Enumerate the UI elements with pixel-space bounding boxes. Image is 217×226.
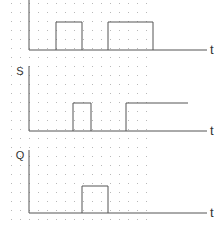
signal-label: Q (16, 149, 25, 161)
pulse (73, 103, 91, 131)
signal-q: Qt (16, 149, 214, 220)
timing-diagram: tStQt (0, 0, 217, 226)
step-high (126, 103, 188, 131)
signal-s: St (16, 65, 214, 138)
dot-grid (11, 3, 147, 220)
signals: tStQt (16, 0, 214, 220)
time-label: t (210, 205, 214, 220)
timing-diagram-canvas: tStQt (0, 0, 217, 226)
time-label: t (210, 42, 214, 57)
pulse (108, 22, 153, 50)
time-label: t (210, 123, 214, 138)
pulse (56, 22, 82, 50)
signal-label: S (16, 65, 23, 77)
pulse (82, 186, 108, 213)
